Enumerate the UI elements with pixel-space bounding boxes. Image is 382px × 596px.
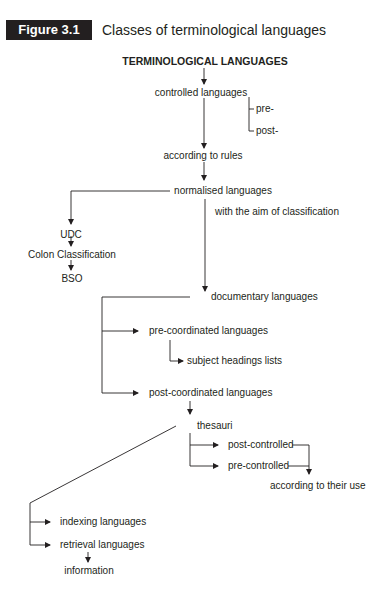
edge-precoord-subject (170, 340, 183, 361)
node-post-coordinated-languages: post-coordinated languages (149, 387, 272, 399)
node-documentary-languages: documentary languages (211, 291, 318, 303)
edge-thesauri-precontrolled (190, 433, 218, 466)
node-bso: BSO (61, 273, 82, 285)
node-pre-coordinated-languages: pre-coordinated languages (149, 325, 268, 337)
node-post-controlled: post-controlled (228, 439, 294, 451)
node-according-to-rules: according to rules (164, 150, 243, 162)
node-thesauri: thesauri (197, 420, 233, 432)
node-indexing-languages: indexing languages (60, 516, 146, 528)
edge-documentary-postcoord (102, 297, 190, 393)
node-udc: UDC (60, 229, 82, 241)
node-controlled-languages: controlled languages (155, 87, 247, 99)
node-retrieval-languages: retrieval languages (60, 539, 145, 551)
node-according-to-their-use: according to their use (270, 480, 366, 492)
edge-normalised-udc (71, 191, 170, 224)
edge-label-aim-of-classification: with the aim of classification (215, 206, 339, 218)
node-colon-classification: Colon Classification (28, 249, 116, 261)
node-terminological-languages: TERMINOLOGICAL LANGUAGES (122, 55, 287, 67)
node-pre: pre- (256, 103, 274, 115)
edge-controlled-prepost (249, 97, 254, 131)
node-subject-headings-lists: subject headings lists (187, 355, 282, 367)
node-normalised-languages: normalised languages (174, 185, 272, 197)
node-information: information (64, 565, 113, 577)
node-post: post- (256, 125, 278, 137)
node-pre-controlled: pre-controlled (228, 460, 289, 472)
edge-controlled-use (292, 445, 309, 474)
